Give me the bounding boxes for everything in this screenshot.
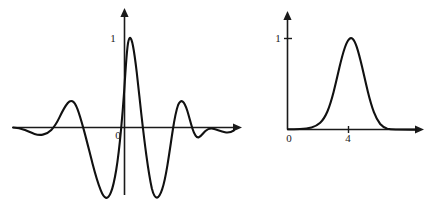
right-x-tick-label-4: 4 [345,132,351,144]
plots-svg: 1 0 1 0 4 [0,0,432,217]
right-y-axis-arrowhead [283,11,291,20]
left-y-tick-label-1: 1 [110,32,116,44]
left-panel-wavelet-chart: 1 0 [13,8,242,198]
gaussian-curve [288,38,416,129]
right-y-tick-label-1: 1 [275,32,281,44]
right-origin-label: 0 [286,132,292,144]
right-panel-gaussian-chart: 1 0 4 [275,11,424,144]
left-y-axis-arrowhead [120,8,128,17]
left-origin-label: 0 [115,129,121,141]
wavelet-curve [13,38,234,198]
figure-container: 1 0 1 0 4 [0,0,432,217]
